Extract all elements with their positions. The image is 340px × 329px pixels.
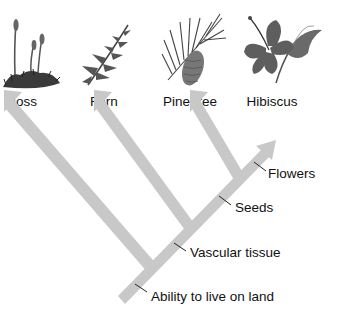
cladogram-branches — [0, 0, 340, 329]
pine-branch-arrow — [190, 90, 246, 185]
trait-label-flowers: Flowers — [268, 166, 315, 181]
trait-label-seeds: Seeds — [235, 200, 273, 215]
trait-label-ability-to-live-on-land: Ability to live on land — [151, 289, 274, 304]
trait-label-vascular-tissue: Vascular tissue — [190, 245, 281, 260]
cladogram: Moss Fern Pine tree Hibiscus — [0, 0, 340, 329]
moss-branch-arrow — [4, 90, 158, 274]
